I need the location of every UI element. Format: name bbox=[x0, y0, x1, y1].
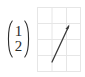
vector-entry-y: 2 bbox=[15, 39, 23, 54]
vector-entries: 1 2 bbox=[15, 24, 23, 55]
figure-root: 1 2 bbox=[0, 0, 85, 77]
column-vector-notation: 1 2 bbox=[3, 18, 34, 60]
vector-plot-svg bbox=[37, 7, 81, 72]
grid-plot bbox=[37, 7, 81, 72]
vector-entry-x: 1 bbox=[15, 24, 23, 39]
grid-horizontal-lines bbox=[37, 8, 81, 72]
